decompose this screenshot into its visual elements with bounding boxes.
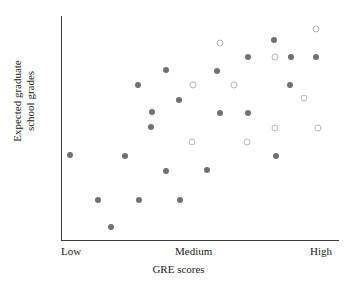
data-point-open [190,81,197,88]
data-point-open [216,39,223,46]
data-point-filled [313,54,319,60]
data-point-open [315,125,322,132]
data-point-filled [136,197,142,203]
data-point-open [272,125,279,132]
scatter-plot-figure: Low Medium High GRE scores Expected grad… [0,0,357,289]
data-point-filled [148,124,154,130]
data-point-filled [204,167,210,173]
data-point-filled [95,197,101,203]
data-point-filled [245,110,251,116]
data-point-filled [287,82,293,88]
data-point-open [230,81,237,88]
x-axis-title: GRE scores [0,263,357,275]
data-point-filled [217,110,223,116]
data-point-filled [177,197,183,203]
plot-area [62,16,338,240]
x-axis-line [61,240,339,241]
data-point-filled [67,152,73,158]
x-tick-label-medium: Medium [175,244,212,258]
data-point-open [243,138,250,145]
y-axis-title-line-1: Expected graduate [11,21,24,181]
data-point-filled [122,153,128,159]
data-point-filled [163,168,169,174]
data-point-filled [214,68,220,74]
data-point-open [272,53,279,60]
x-tick-label-low: Low [61,244,81,258]
data-point-filled [271,37,277,43]
data-point-filled [273,153,279,159]
x-tick-label-high: High [310,244,332,258]
y-axis-title: Expected graduate school grades [11,21,45,181]
data-point-open [312,25,319,32]
data-point-open [188,138,195,145]
data-point-filled [135,82,141,88]
data-point-filled [288,54,294,60]
data-point-filled [108,224,114,230]
data-point-filled [163,67,169,73]
data-point-open [301,94,308,101]
data-point-filled [149,109,155,115]
data-point-filled [176,97,182,103]
data-point-filled [245,54,251,60]
y-axis-title-line-2: school grades [24,21,37,181]
